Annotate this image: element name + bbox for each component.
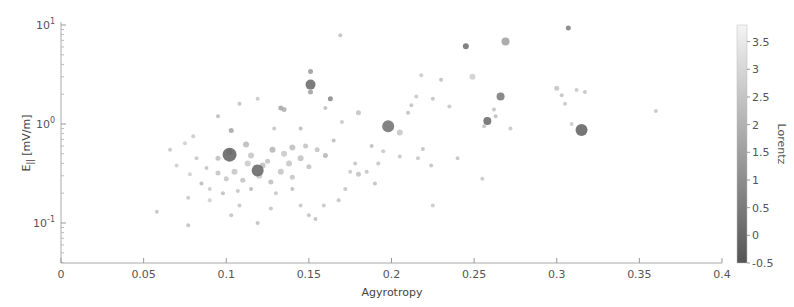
- data-point: [278, 169, 284, 175]
- data-point: [583, 90, 587, 94]
- svg-text:E|| [mV/m]: E|| [mV/m]: [20, 114, 35, 171]
- data-point: [308, 69, 313, 74]
- data-point: [186, 223, 190, 227]
- y-tick-label: 101: [36, 17, 55, 32]
- data-point: [240, 178, 245, 183]
- data-point: [281, 151, 287, 157]
- data-point: [365, 170, 369, 174]
- data-point: [480, 177, 484, 181]
- data-point: [439, 78, 443, 82]
- data-point: [168, 148, 172, 152]
- data-point: [409, 103, 413, 107]
- data-point: [323, 153, 328, 158]
- x-tick-label: 0.1: [218, 268, 236, 281]
- plot-area: 00.050.10.150.20.250.30.350.4 10110010-1: [33, 17, 731, 281]
- data-point: [429, 164, 433, 168]
- data-point: [215, 170, 220, 175]
- data-point: [431, 97, 435, 101]
- data-point: [406, 111, 410, 115]
- data-point: [272, 127, 276, 131]
- data-point: [269, 207, 273, 211]
- y-tick-label: 100: [36, 116, 55, 131]
- data-point: [249, 187, 253, 191]
- data-point: [188, 172, 192, 176]
- data-point: [502, 38, 510, 46]
- data-point: [199, 182, 203, 186]
- data-point: [431, 204, 435, 208]
- data-point: [494, 114, 498, 118]
- data-point: [286, 160, 292, 166]
- data-point: [191, 134, 195, 138]
- data-point: [322, 204, 326, 208]
- data-point: [208, 187, 212, 191]
- data-point: [307, 213, 311, 217]
- data-point: [469, 74, 475, 80]
- colorbar-tick-label: 0.5: [752, 202, 770, 215]
- data-point: [306, 80, 316, 90]
- colorbar-tick-label: 2: [752, 119, 759, 132]
- x-tick-label: 0.3: [548, 268, 566, 281]
- data-point: [215, 156, 220, 161]
- colorbar-tick-label: 2.5: [752, 91, 770, 104]
- data-point: [414, 94, 418, 98]
- data-point: [306, 164, 311, 169]
- scatter-chart: 00.050.10.150.20.250.30.350.4 10110010-1…: [0, 0, 794, 307]
- data-point: [274, 191, 278, 195]
- colorbar-tick-label: 1: [752, 174, 759, 187]
- data-point: [315, 147, 320, 152]
- x-tick-label: 0.35: [627, 268, 652, 281]
- data-point: [353, 161, 357, 165]
- data-point: [299, 127, 303, 131]
- colorbar-tick-label: -0.5: [752, 257, 773, 270]
- y-axis-title-unit: [mV/m]: [20, 114, 33, 159]
- data-point: [224, 176, 229, 181]
- data-point: [483, 117, 491, 125]
- data-point: [337, 198, 341, 202]
- colorbar-tick-label: 0: [752, 229, 759, 242]
- data-point: [421, 147, 425, 151]
- data-point: [186, 196, 190, 200]
- data-point: [328, 96, 333, 101]
- data-point: [265, 159, 270, 164]
- data-point: [223, 148, 237, 162]
- data-point: [456, 156, 460, 160]
- data-point: [398, 154, 402, 158]
- data-point: [204, 166, 208, 170]
- colorbar-tick-label: 1.5: [752, 146, 770, 159]
- x-axis-title: Agyrotropy: [362, 286, 423, 299]
- data-point: [482, 124, 486, 128]
- data-point: [447, 105, 451, 109]
- data-point: [232, 169, 238, 175]
- data-point: [252, 164, 264, 176]
- y-tick-label: 10-1: [33, 215, 55, 230]
- data-point: [245, 160, 251, 166]
- data-point: [208, 198, 212, 202]
- data-point: [278, 106, 283, 111]
- data-point: [419, 73, 423, 77]
- data-point: [303, 143, 308, 148]
- data-point: [356, 172, 361, 177]
- data-point: [289, 144, 295, 150]
- data-point: [343, 187, 347, 191]
- data-point: [397, 130, 403, 136]
- colorbar-tick-label: 3: [752, 63, 759, 76]
- data-point: [654, 109, 658, 113]
- data-point: [566, 26, 571, 31]
- data-point: [298, 155, 304, 161]
- data-point: [323, 106, 327, 110]
- data-point: [356, 110, 361, 115]
- data-point: [183, 141, 187, 145]
- data-point: [221, 191, 225, 195]
- x-tick-label: 0.25: [462, 268, 487, 281]
- data-point: [370, 144, 374, 148]
- data-point: [576, 124, 588, 136]
- data-point: [229, 128, 234, 133]
- x-tick-label: 0.2: [383, 268, 401, 281]
- data-point: [463, 43, 469, 49]
- data-point: [348, 170, 352, 174]
- data-point: [248, 153, 254, 159]
- x-ticks: 00.050.10.150.20.250.30.350.4: [58, 258, 731, 281]
- data-point: [416, 156, 420, 160]
- data-point: [175, 164, 179, 168]
- data-point: [270, 147, 276, 153]
